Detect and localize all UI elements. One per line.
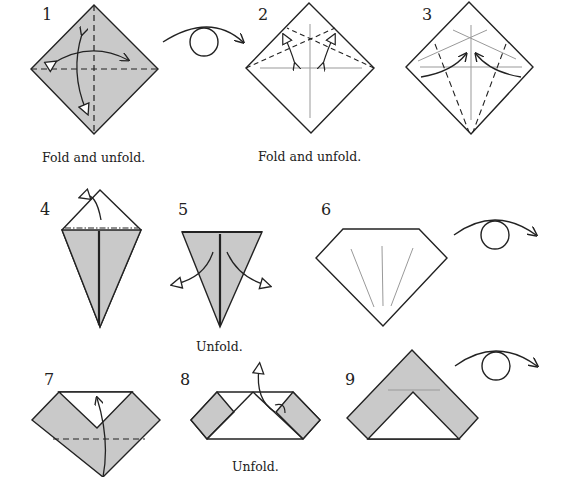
step-2-caption: Fold and unfold.	[258, 149, 361, 164]
step-7-diagram	[32, 392, 160, 477]
step-number-3: 3	[422, 5, 432, 24]
step-1-diagram	[31, 5, 158, 134]
step-5-caption: Unfold.	[196, 339, 243, 354]
step-number-2: 2	[258, 5, 268, 24]
step-number-6: 6	[321, 200, 331, 219]
turn-over-icon	[455, 351, 537, 380]
step-8-diagram	[191, 368, 320, 439]
step-1-caption: Fold and unfold.	[42, 150, 145, 165]
step-number-8: 8	[180, 370, 190, 389]
step-number-9: 9	[345, 370, 355, 389]
step-number-5: 5	[178, 200, 188, 219]
step-5-diagram	[176, 232, 266, 327]
step-number-1: 1	[42, 5, 52, 24]
turn-over-icon	[163, 27, 243, 56]
step-number-4: 4	[40, 200, 50, 219]
origami-diagram	[0, 0, 565, 477]
step-number-7: 7	[44, 370, 54, 389]
step-8-caption: Unfold.	[232, 459, 279, 474]
turn-over-icon	[454, 220, 536, 249]
step-6-diagram	[316, 229, 447, 326]
step-4-diagram	[62, 190, 141, 327]
